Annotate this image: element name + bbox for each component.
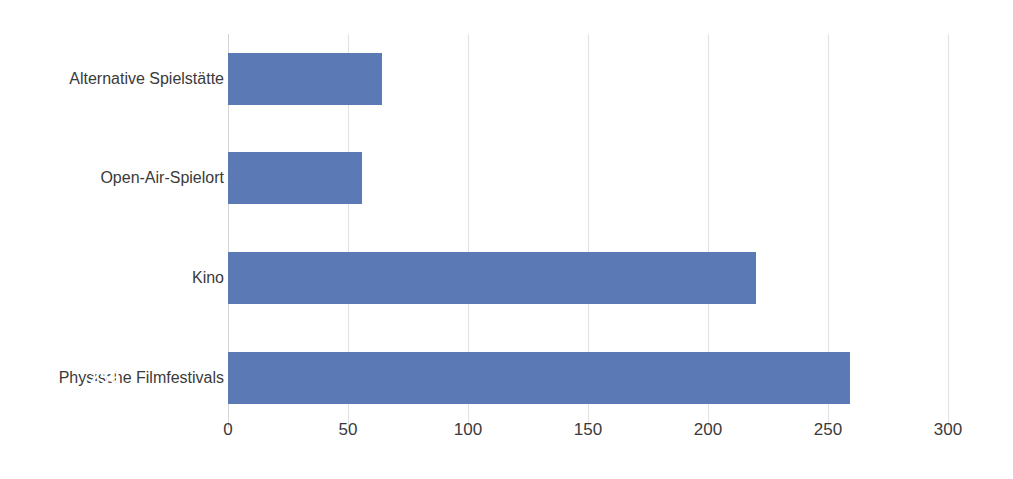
bar-chart: Alternative Spielstätte Open-Air-Spielor… <box>0 0 1013 479</box>
xtick-label: 150 <box>574 420 602 440</box>
category-label: Kino <box>4 252 224 304</box>
xtick-label: 250 <box>814 420 842 440</box>
bar[interactable] <box>228 53 382 105</box>
value-axis: 0 50 100 150 200 250 300 <box>228 420 948 450</box>
xtick-label: 100 <box>454 420 482 440</box>
xtick-label: 200 <box>694 420 722 440</box>
bar-value-label: 220 <box>0 252 26 304</box>
xtick-label: 300 <box>934 420 962 440</box>
category-label: Open-Air-Spielort <box>4 152 224 204</box>
xtick-label: 50 <box>339 420 358 440</box>
plot-area: 64 56 220 259 <box>228 34 948 409</box>
bar[interactable] <box>228 152 362 204</box>
category-label: Alternative Spielstätte <box>4 53 224 105</box>
bar-value-label: 259 <box>90 352 119 404</box>
xtick-label: 0 <box>223 420 232 440</box>
gridline-300 <box>948 34 949 428</box>
bar[interactable] <box>228 352 850 404</box>
bar[interactable] <box>228 252 756 304</box>
